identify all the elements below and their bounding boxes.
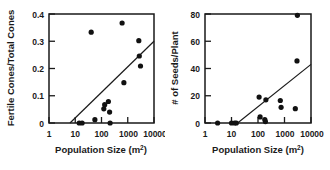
data-point bbox=[278, 98, 283, 103]
y-axis-title-right: # of Seeds/Plant bbox=[169, 30, 180, 104]
data-point bbox=[108, 120, 113, 125]
y-axis-title-left: Fertile Cones/Total Cones bbox=[5, 10, 16, 126]
data-point bbox=[263, 97, 268, 102]
x-tick-label-left-0: 1 bbox=[47, 129, 52, 139]
data-point bbox=[293, 106, 298, 111]
x-tick-label-right-1: 10 bbox=[227, 129, 237, 139]
x-tick-label-right-3: 1000 bbox=[276, 129, 295, 139]
x-tick-label-left-1: 10 bbox=[71, 129, 81, 139]
x-axis-title-right-tail: ) bbox=[301, 144, 304, 155]
x-tick-label-left-4: 10000 bbox=[143, 129, 165, 139]
data-point bbox=[120, 20, 125, 25]
data-point bbox=[294, 58, 299, 63]
x-tick-label-left-2: 100 bbox=[94, 129, 108, 139]
data-point bbox=[80, 120, 85, 125]
y-tick-label-right-4: 80 bbox=[191, 10, 201, 20]
chart-panel-left: Fertile Cones/Total Cones 0.4 0.3 0.2 0.… bbox=[0, 0, 165, 170]
chart-panel-right: # of Seeds/Plant 80 60 40 20 0 bbox=[165, 0, 330, 170]
y-tick-label-right-3: 60 bbox=[191, 37, 201, 47]
data-point bbox=[92, 117, 97, 122]
figure-container: Fertile Cones/Total Cones 0.4 0.3 0.2 0.… bbox=[0, 0, 330, 170]
data-point bbox=[279, 105, 284, 110]
data-point bbox=[138, 63, 143, 68]
y-tick-label-right-1: 20 bbox=[191, 91, 201, 101]
y-tick-label-left-4: 0.4 bbox=[32, 10, 44, 20]
x-tick-label-left-3: 1000 bbox=[119, 129, 138, 139]
y-tick-label-left-3: 0.3 bbox=[32, 37, 44, 47]
y-tick-label-right-2: 40 bbox=[191, 64, 201, 74]
data-point bbox=[215, 120, 220, 125]
x-axis-title-left: Population Size (m2) bbox=[55, 144, 147, 156]
x-axis-title-left-base: Population Size (m bbox=[55, 144, 140, 155]
data-point bbox=[89, 30, 94, 35]
scatter-plot-fertile-cones: Fertile Cones/Total Cones 0.4 0.3 0.2 0.… bbox=[0, 0, 165, 170]
data-point bbox=[107, 110, 112, 115]
y-tick-label-left-1: 0.1 bbox=[32, 91, 44, 101]
x-axis-title-left-tail: ) bbox=[144, 144, 147, 155]
plot-frame-left bbox=[49, 14, 154, 123]
x-axis-title-right-base: Population Size (m bbox=[212, 144, 297, 155]
scatter-plot-seeds-per-plant: # of Seeds/Plant 80 60 40 20 0 bbox=[165, 0, 330, 170]
trend-line-left bbox=[70, 41, 154, 123]
y-tick-label-left-0: 0 bbox=[39, 119, 44, 129]
data-point bbox=[136, 38, 141, 43]
data-point bbox=[263, 119, 268, 124]
trend-line-right bbox=[238, 64, 311, 123]
data-point bbox=[258, 114, 263, 119]
x-axis-title-right: Population Size (m2) bbox=[212, 144, 304, 156]
x-tick-label-right-0: 1 bbox=[203, 129, 208, 139]
x-tick-label-right-2: 100 bbox=[251, 129, 265, 139]
data-point bbox=[137, 53, 142, 58]
data-point bbox=[121, 80, 126, 85]
y-tick-label-left-2: 0.2 bbox=[32, 64, 44, 74]
data-point bbox=[106, 99, 111, 104]
y-tick-label-right-0: 0 bbox=[195, 119, 200, 129]
data-point bbox=[234, 120, 239, 125]
data-point bbox=[295, 13, 300, 18]
data-point bbox=[257, 95, 262, 100]
x-tick-label-right-4: 10000 bbox=[300, 129, 324, 139]
